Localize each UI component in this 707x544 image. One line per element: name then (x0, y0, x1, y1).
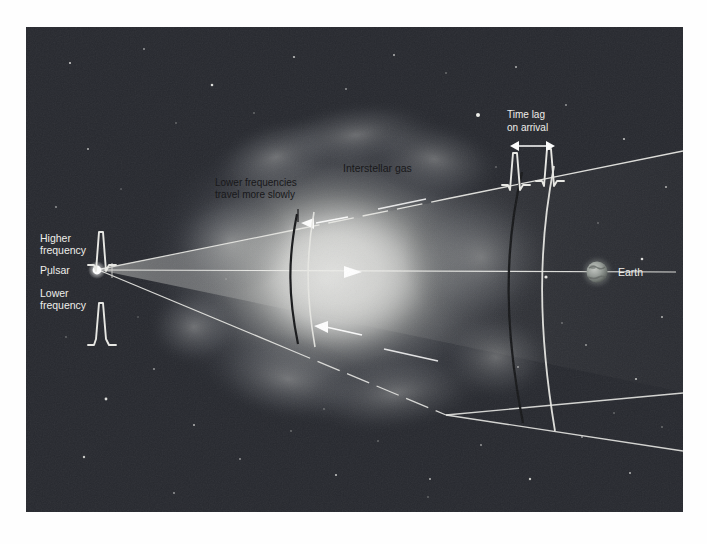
film-grain-overlay (26, 27, 683, 512)
page-root: Higher frequency Pulsar Lower frequency … (0, 0, 707, 544)
astronomy-figure: Higher frequency Pulsar Lower frequency … (26, 27, 683, 512)
figure-canvas: Higher frequency Pulsar Lower frequency … (26, 27, 683, 512)
